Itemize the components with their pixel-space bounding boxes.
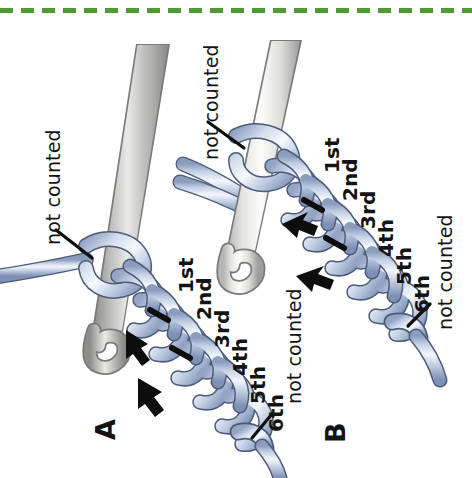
panel-a-slip-knot	[238, 431, 280, 478]
green-dashed-divider	[0, 8, 472, 13]
figure-canvas: not counted 1st 2nd 3rd 4th 5th 6th not …	[0, 0, 472, 478]
panel-b-chain	[272, 156, 420, 334]
panel-a-working-yarn	[0, 260, 86, 276]
illustration-artwork	[0, 14, 472, 478]
panel-a-arrow-2	[138, 378, 164, 417]
panel-b-artwork	[180, 40, 440, 380]
